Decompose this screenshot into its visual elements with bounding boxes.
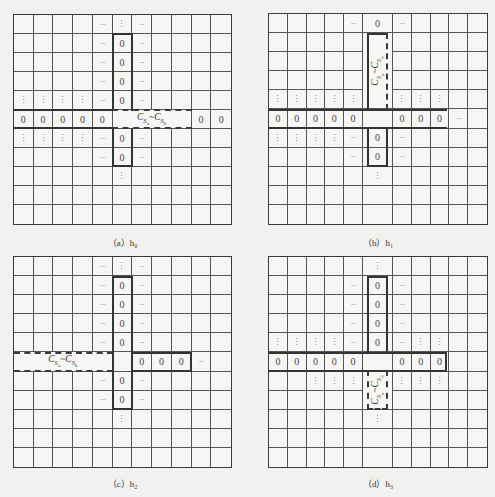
- matrix-cell: [449, 410, 468, 429]
- matrix-cell: [344, 71, 363, 90]
- matrix-cell: [431, 391, 450, 410]
- matrix-cell: [288, 314, 307, 333]
- matrix-cell: [431, 314, 450, 333]
- matrix-cell: [53, 148, 73, 167]
- matrix-cell: [431, 429, 450, 448]
- matrix-cell: [34, 34, 54, 53]
- matrix-cell: [192, 129, 212, 148]
- matrix-cell: ···: [93, 314, 113, 333]
- matrix-cell: [34, 391, 54, 410]
- matrix-cell: [172, 53, 192, 72]
- matrix-cell: ⋮: [412, 333, 431, 352]
- matrix-cell: 0: [363, 14, 393, 33]
- matrix-cell: [14, 429, 34, 448]
- matrix-cell: [468, 33, 487, 52]
- matrix-cell: [325, 429, 344, 448]
- matrix-cell: [307, 71, 326, 90]
- matrix-cell: [172, 257, 192, 276]
- matrix-cell: 0: [325, 109, 344, 128]
- matrix-cell: [73, 186, 93, 205]
- matrix-cell: [288, 276, 307, 295]
- matrix-cell: ⋮: [269, 129, 288, 148]
- matrix-cell: [269, 372, 288, 391]
- matrix-cell: [412, 205, 431, 224]
- matrix-cell: [152, 295, 172, 314]
- matrix-cell: [288, 167, 307, 186]
- matrix-cell: [211, 53, 231, 72]
- matrix-cell: ···: [93, 257, 113, 276]
- matrix-cell: 0: [269, 109, 288, 128]
- matrix-cell: ···: [449, 109, 468, 128]
- matrix-cell: [431, 205, 450, 224]
- matrix-cell: [73, 314, 93, 333]
- matrix-cell: ⋮: [73, 129, 93, 148]
- matrix-cell: 0: [431, 352, 450, 371]
- matrix-cell: ⋮: [53, 91, 73, 110]
- matrix-cell: [431, 129, 450, 148]
- matrix-cell: ···: [344, 295, 363, 314]
- matrix-cell: [431, 33, 450, 52]
- matrix-cell: [53, 53, 73, 72]
- matrix-cell: ⋮: [113, 15, 133, 34]
- matrix-cell: [192, 34, 212, 53]
- matrix-cell: [211, 410, 231, 429]
- matrix-cell: ···: [344, 333, 363, 352]
- matrix-cell: [269, 148, 288, 167]
- matrix-cell: [468, 372, 487, 391]
- matrix-cell: [14, 295, 34, 314]
- matrix-cell: 0: [14, 110, 34, 129]
- matrix-cell: [211, 448, 231, 467]
- matrix-cell: 0: [393, 109, 412, 128]
- matrix-cell: [34, 333, 54, 352]
- matrix-cell: ⋮: [363, 167, 393, 186]
- matrix-cell: 0: [363, 129, 393, 148]
- matrix-cell: ···: [132, 295, 152, 314]
- matrix-cell: ···: [132, 391, 152, 410]
- matrix-cell: [172, 448, 192, 467]
- matrix-cell: [288, 295, 307, 314]
- matrix-cell: [269, 314, 288, 333]
- matrix-cell: ···: [93, 333, 113, 352]
- matrix-cell: ···: [132, 372, 152, 391]
- matrix-cell: [132, 410, 152, 429]
- matrix-cell: [363, 186, 393, 205]
- matrix-cell: 0: [412, 109, 431, 128]
- matrix-cell: ···: [192, 352, 212, 371]
- matrix-cell: [307, 448, 326, 467]
- matrix-cell: [14, 148, 34, 167]
- matrix-cell: [53, 429, 73, 448]
- matrix-cell: ⋮: [344, 372, 363, 391]
- matrix-cell: [412, 257, 431, 276]
- matrix-cell: [307, 314, 326, 333]
- matrix-cell: [393, 448, 412, 467]
- matrix-cell: [269, 33, 288, 52]
- matrix-cell: ···: [132, 148, 152, 167]
- matrix-cell: [449, 167, 468, 186]
- matrix-cell: [325, 71, 344, 90]
- matrix-cell: [269, 276, 288, 295]
- matrix-cell: [325, 148, 344, 167]
- matrix-cell: [73, 205, 93, 224]
- matrix-cell: [172, 34, 192, 53]
- matrix-cell: [325, 410, 344, 429]
- matrix-cell: [192, 15, 212, 34]
- matrix-cell: [152, 410, 172, 429]
- matrix-cell: [269, 429, 288, 448]
- matrix-cell: [14, 34, 34, 53]
- matrix-cell: [325, 52, 344, 71]
- matrix-cell: [152, 429, 172, 448]
- matrix-cell: [152, 186, 172, 205]
- matrix-cell: [412, 448, 431, 467]
- matrix-cell: [34, 410, 54, 429]
- matrix-cell: [288, 429, 307, 448]
- matrix-cell: [288, 52, 307, 71]
- matrix-cell: [325, 448, 344, 467]
- matrix-cell: ⋮: [431, 90, 450, 109]
- matrix-cell: [307, 186, 326, 205]
- matrix-cell: [307, 257, 326, 276]
- matrix-cell: [172, 314, 192, 333]
- matrix-cell: 0: [307, 109, 326, 128]
- matrix-cell: [53, 167, 73, 186]
- matrix-cell: [468, 352, 487, 371]
- matrix-cell: [53, 410, 73, 429]
